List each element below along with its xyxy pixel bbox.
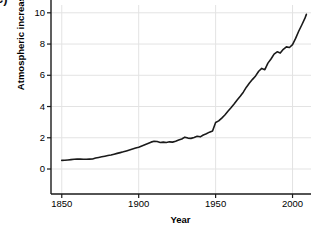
chart-figure: c) Atmospheric increase Year 0246810 185… (0, 0, 311, 228)
gridlines (51, 5, 311, 194)
plot-area (0, 0, 311, 228)
axis-ticks (47, 13, 293, 198)
axis-spines (51, 0, 311, 194)
data-series (62, 14, 307, 160)
